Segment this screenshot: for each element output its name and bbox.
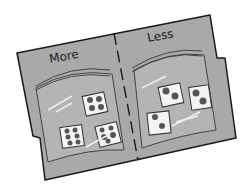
card-right-a [158, 83, 184, 107]
folder-illustration: More Less [0, 0, 249, 196]
card-right-b [189, 85, 212, 111]
left-bag [36, 69, 124, 162]
card-left-6 [60, 125, 85, 149]
card-left-4 [82, 92, 108, 116]
card-right-c [147, 111, 171, 135]
